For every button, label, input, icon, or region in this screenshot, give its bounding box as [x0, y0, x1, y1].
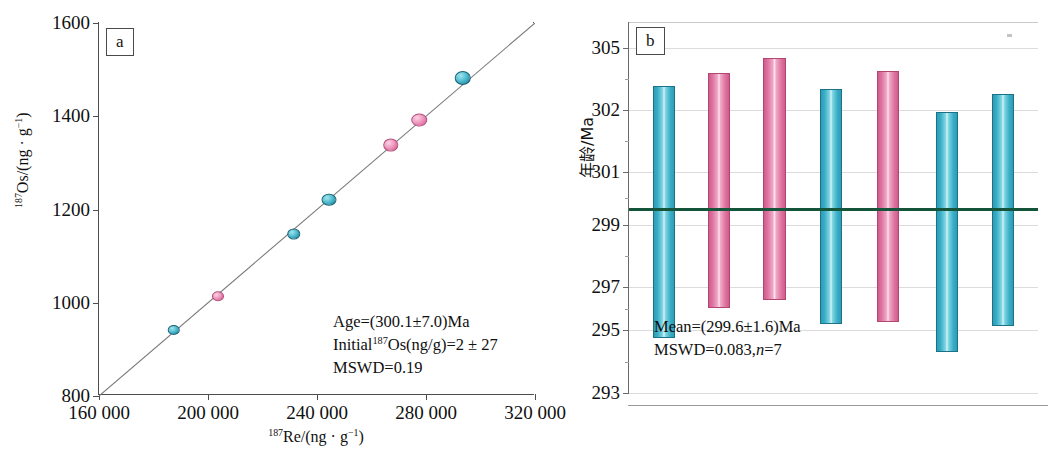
panel-b-annotation-mswd: MSWD=0.083,n=7: [654, 339, 801, 362]
panel-a: 1600 1400 1200 1000 800 160 000 200 000 …: [0, 0, 566, 456]
panel-b-ytick-label-293: 293: [592, 382, 621, 404]
panel-b-annotation-mean: Mean=(299.6±1.6)Ma: [654, 316, 801, 339]
panel-b-scan-speck: [1007, 34, 1012, 37]
panel-a-x-axis-title-sup: 187: [268, 427, 283, 438]
panel-b-annotation-mswd-prefix: MSWD=0.083,: [654, 340, 756, 359]
panel-a-xtick-label-280000: 280 000: [395, 402, 457, 424]
panel-b-annotation-block: Mean=(299.6±1.6)Ma MSWD=0.083,n=7: [654, 316, 801, 362]
panel-b-minor-tick-4: [625, 256, 629, 257]
panel-b-annotation-mswd-n: n: [756, 340, 764, 359]
panel-b-error-bar-5: [877, 71, 899, 322]
panel-b-ytick-label-297: 297: [592, 276, 621, 298]
panel-a-y-axis-title-sup2: −1: [13, 118, 24, 129]
figure-root: 1600 1400 1200 1000 800 160 000 200 000 …: [0, 0, 1049, 456]
panel-b-ytick-302: [623, 110, 629, 111]
panel-b-ytick-297: [623, 287, 629, 288]
panel-a-xtick-label-200000: 200 000: [177, 402, 239, 424]
panel-b-ytick-label-295: 295: [592, 319, 621, 341]
panel-b-error-bar-3: [763, 58, 786, 300]
panel-a-y-axis-title: 187Os/(ng · g−1): [14, 112, 32, 208]
panel-a-x-axis-title: 187Re/(ng · g−1): [268, 428, 364, 446]
panel-a-annotation-mswd: MSWD=0.19: [333, 357, 498, 380]
panel-b-error-bar-6: [936, 112, 958, 352]
panel-a-ytick-label-1200: 1200: [52, 199, 90, 221]
panel-b-mean-line: [629, 208, 1038, 211]
panel-b-minor-tick-3: [625, 198, 629, 199]
panel-a-xtick-320000: [535, 394, 536, 400]
panel-b-ytick-label-299: 299: [592, 214, 621, 236]
panel-a-annotation-age: Age=(300.1±7.0)Ma: [333, 311, 498, 334]
panel-b-ytick-295: [623, 330, 629, 331]
panel-a-annotation-initial-prefix: Initial: [333, 335, 372, 354]
panel-a-annotation-initial-rest: Os(ng/g)=2 ± 27: [388, 335, 498, 354]
panel-b-top-rule: [629, 22, 1038, 23]
panel-b: 293295297299301302305 b 年龄/Ma Mean=(299.…: [566, 0, 1049, 456]
panel-a-data-point-7: [455, 71, 472, 85]
panel-a-xtick-label-320000: 320 000: [504, 402, 566, 424]
panel-b-minor-tick-6: [625, 362, 629, 363]
panel-a-tag: a: [106, 28, 134, 56]
panel-a-annotation-initial-sup: 187: [372, 334, 387, 345]
panel-b-ytick-299: [623, 225, 629, 226]
panel-a-data-point-4: [322, 193, 337, 206]
panel-a-data-point-3: [287, 228, 301, 239]
panel-b-gridline-305: [629, 48, 1038, 49]
panel-b-y-axis-title: 年龄/Ma: [574, 117, 598, 178]
panel-b-minor-tick-1: [625, 79, 629, 80]
panel-a-xtick-label-160000: 160 000: [68, 402, 130, 424]
panel-b-minor-tick-5: [625, 309, 629, 310]
panel-a-data-point-1: [168, 325, 181, 335]
panel-a-y-axis-title-sup: 187: [13, 193, 24, 208]
panel-b-error-bar-4: [820, 89, 842, 324]
panel-a-annotation-block: Age=(300.1±7.0)Ma Initial187Os(ng/g)=2 ±…: [333, 311, 498, 379]
panel-b-error-bar-2: [708, 73, 730, 308]
panel-a-x-axis-title-sup2: −1: [348, 427, 359, 438]
panel-b-ytick-293: [623, 393, 629, 394]
panel-a-data-point-2: [212, 291, 224, 301]
panel-b-tag: b: [636, 27, 665, 55]
panel-b-minor-tick-2: [625, 141, 629, 142]
panel-a-annotation-initial: Initial187Os(ng/g)=2 ± 27: [333, 334, 498, 357]
panel-a-ytick-label-1000: 1000: [52, 292, 90, 314]
panel-a-ytick-label-1600: 1600: [52, 12, 90, 34]
panel-a-ytick-label-1400: 1400: [52, 105, 90, 127]
panel-a-data-point-5: [383, 139, 399, 152]
panel-a-data-point-6: [411, 114, 427, 127]
panel-b-baseline-rule: [628, 405, 1048, 406]
panel-b-annotation-mswd-suffix: =7: [764, 340, 782, 359]
panel-b-ytick-label-305: 305: [592, 37, 621, 59]
panel-b-error-bar-1: [653, 86, 675, 338]
panel-b-ytick-305: [623, 48, 629, 49]
panel-a-xtick-label-240000: 240 000: [286, 402, 348, 424]
panel-b-ytick-301: [623, 172, 629, 173]
panel-b-gridline-293: [629, 393, 1038, 394]
